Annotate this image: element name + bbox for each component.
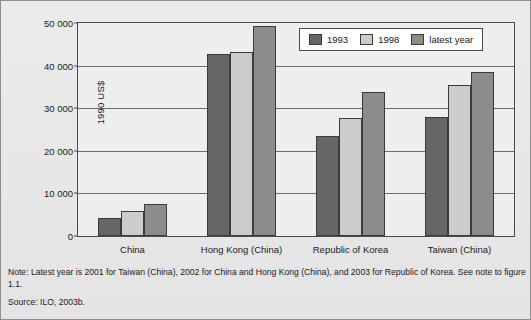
bar-group: Republic of Korea <box>296 23 405 236</box>
y-tick-label: 10 000 <box>44 188 73 199</box>
category-label: China <box>120 244 145 255</box>
legend-label: latest year <box>429 34 473 45</box>
bar-latest-year <box>253 26 276 236</box>
bar-1998 <box>448 85 471 236</box>
note-text: Note: Latest year is 2001 for Taiwan (Ch… <box>8 267 526 290</box>
figure-container: 1990 US$ 50 00040 00030 00020 00010 0000… <box>0 0 531 320</box>
y-tick-label: 50 000 <box>44 18 73 29</box>
legend-label: 1998 <box>378 34 399 45</box>
category-label: Hong Kong (China) <box>201 244 282 255</box>
bar-latest-year <box>144 204 167 236</box>
category-label: Republic of Korea <box>313 244 389 255</box>
y-tick-label: 20 000 <box>44 145 73 156</box>
legend-swatch-icon <box>309 34 322 45</box>
bar-latest-year <box>471 72 494 236</box>
legend-item: latest year <box>411 34 473 45</box>
y-tick-label: 0 <box>68 231 73 242</box>
bar-1998 <box>339 118 362 236</box>
bar-groups: ChinaHong Kong (China)Republic of KoreaT… <box>78 23 514 236</box>
legend-item: 1993 <box>309 34 348 45</box>
plot-area: 1990 US$ 50 00040 00030 00020 00010 0000… <box>77 22 515 237</box>
bar-group: Hong Kong (China) <box>187 23 296 236</box>
bar-1993 <box>207 54 230 236</box>
legend-label: 1993 <box>327 34 348 45</box>
y-tick-label: 40 000 <box>44 60 73 71</box>
category-label: Taiwan (China) <box>428 244 491 255</box>
source-text: Source: ILO, 2003b. <box>8 297 526 309</box>
chart-legend: 19931998latest year <box>299 28 483 51</box>
legend-swatch-icon <box>411 34 424 45</box>
bar-group: China <box>78 23 187 236</box>
bar-1993 <box>98 218 121 236</box>
bar-latest-year <box>362 92 385 236</box>
bar-1998 <box>230 52 253 236</box>
bar-1993 <box>316 136 339 236</box>
footnotes: Note: Latest year is 2001 for Taiwan (Ch… <box>8 267 526 309</box>
bar-1998 <box>121 211 144 236</box>
bar-1993 <box>425 117 448 236</box>
legend-swatch-icon <box>360 34 373 45</box>
legend-item: 1998 <box>360 34 399 45</box>
bar-group: Taiwan (China) <box>405 23 514 236</box>
y-tick-label: 30 000 <box>44 103 73 114</box>
